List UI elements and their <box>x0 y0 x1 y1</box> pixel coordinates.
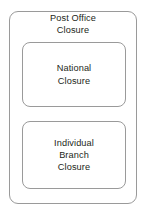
individual-branch-closure-block: Individual Branch Closure <box>22 121 126 189</box>
post-office-closure-label: Post Office Closure <box>10 13 136 36</box>
national-closure-label: National Closure <box>57 62 92 86</box>
diagram-canvas: Post Office Closure National Closure Ind… <box>0 0 146 214</box>
national-closure-block: National Closure <box>22 42 126 107</box>
post-office-closure-block: Post Office Closure National Closure Ind… <box>9 11 137 204</box>
individual-branch-closure-label: Individual Branch Closure <box>54 137 94 174</box>
